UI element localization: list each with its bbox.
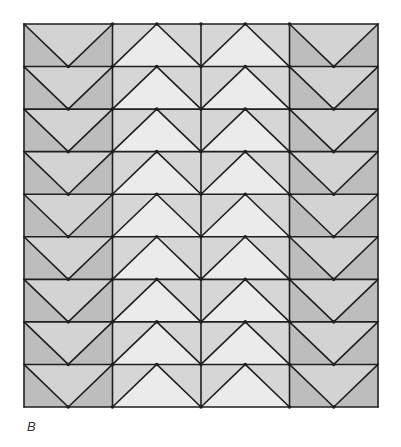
vertex-dot bbox=[155, 278, 159, 282]
vertex-dot bbox=[199, 235, 203, 239]
vertex-dot bbox=[111, 22, 115, 26]
vertex-dot bbox=[111, 150, 115, 154]
vertex-dot bbox=[199, 65, 203, 69]
vertex-dot bbox=[155, 320, 159, 324]
vertex-dot bbox=[288, 235, 292, 239]
vertex-dot bbox=[155, 192, 159, 196]
vertex-dot bbox=[155, 363, 159, 367]
vertex-dot bbox=[288, 363, 292, 367]
vertex-dot bbox=[66, 405, 70, 409]
vertex-dot bbox=[111, 107, 115, 111]
vertex-dot bbox=[111, 235, 115, 239]
figure-label: B bbox=[27, 419, 36, 434]
vertex-dot bbox=[288, 320, 292, 324]
vertex-dot bbox=[199, 107, 203, 111]
vertex-dot bbox=[243, 22, 247, 26]
vertex-dot bbox=[155, 22, 159, 26]
vertex-dot bbox=[66, 192, 70, 196]
vertex-dot bbox=[332, 150, 336, 154]
vertex-dot bbox=[199, 363, 203, 367]
vertex-dot bbox=[288, 192, 292, 196]
vertex-dot bbox=[66, 235, 70, 239]
vertex-dot bbox=[199, 150, 203, 154]
vertex-dot bbox=[288, 107, 292, 111]
vertex-dot bbox=[288, 405, 292, 409]
vertex-dot bbox=[155, 235, 159, 239]
vertex-dot bbox=[243, 65, 247, 69]
vertex-dot bbox=[66, 278, 70, 282]
vertex-dot bbox=[199, 192, 203, 196]
vertex-dot bbox=[66, 107, 70, 111]
vertex-dot bbox=[288, 278, 292, 282]
vertex-dot bbox=[332, 320, 336, 324]
vertex-dot bbox=[332, 192, 336, 196]
vertex-dot bbox=[199, 320, 203, 324]
vertex-dot bbox=[332, 363, 336, 367]
vertex-dot bbox=[288, 150, 292, 154]
vertex-dot bbox=[155, 107, 159, 111]
vertex-dot bbox=[243, 235, 247, 239]
vertex-dot bbox=[66, 320, 70, 324]
vertex-dot bbox=[243, 192, 247, 196]
vertex-dot bbox=[332, 405, 336, 409]
vertex-dot bbox=[288, 22, 292, 26]
vertex-dot bbox=[111, 278, 115, 282]
vertex-dot bbox=[111, 192, 115, 196]
vertex-dot bbox=[332, 235, 336, 239]
vertex-dot bbox=[111, 405, 115, 409]
vertex-dot bbox=[243, 320, 247, 324]
vertex-dot bbox=[332, 65, 336, 69]
vertex-dot bbox=[155, 150, 159, 154]
vertex-dot bbox=[66, 65, 70, 69]
vertex-dot bbox=[111, 363, 115, 367]
chevron-tessellation-figure bbox=[0, 0, 401, 447]
vertex-dot bbox=[288, 65, 292, 69]
vertex-dot bbox=[66, 363, 70, 367]
vertex-dot bbox=[155, 65, 159, 69]
vertex-dot bbox=[243, 278, 247, 282]
vertex-dot bbox=[199, 405, 203, 409]
vertex-dot bbox=[111, 320, 115, 324]
vertex-dot bbox=[66, 150, 70, 154]
vertex-dot bbox=[199, 22, 203, 26]
vertex-dot bbox=[243, 363, 247, 367]
vertex-dot bbox=[199, 278, 203, 282]
vertex-dot bbox=[243, 150, 247, 154]
vertex-dot bbox=[243, 107, 247, 111]
vertex-dot bbox=[332, 278, 336, 282]
vertex-dot bbox=[332, 107, 336, 111]
vertex-dot bbox=[111, 65, 115, 69]
